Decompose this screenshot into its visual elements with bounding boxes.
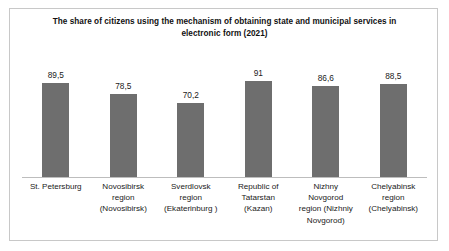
category-axis-labels: St. PetersburgNovosibirskregion(Novosibi… xyxy=(22,181,427,247)
bar-value-label: 70,2 xyxy=(183,90,199,101)
bar-column: 78,5 xyxy=(90,45,158,178)
category-label-line: region xyxy=(157,192,225,203)
chart-frame: The share of citizens using the mechanis… xyxy=(9,8,438,241)
bar[interactable] xyxy=(177,103,204,178)
bar[interactable] xyxy=(380,84,407,178)
bar-column: 91 xyxy=(225,45,293,178)
category-label-line: region (Nizhniy xyxy=(292,203,360,214)
chart-title: The share of citizens using the mechanis… xyxy=(32,16,417,40)
bar-value-label: 86,6 xyxy=(318,73,334,84)
bar-group: 86,6 xyxy=(292,45,360,178)
plot-area: 89,578,570,29186,688,5 xyxy=(22,45,427,178)
category-label: Republic ofTatarstan(Kazan) xyxy=(225,181,293,215)
category-label-line: Novosibirsk xyxy=(90,181,158,192)
bar-group: 70,2 xyxy=(157,45,225,178)
category-label: Sverdlovskregion(Ekaterinburg ) xyxy=(157,181,225,215)
category-label-line: St. Petersburg xyxy=(22,181,90,192)
category-label: Chelyabinskregion(Chelyabinsk) xyxy=(360,181,428,215)
category-label-line: region xyxy=(360,192,428,203)
category-label-line: (Novosibirsk) xyxy=(90,203,158,214)
category-label-line: Chelyabinsk xyxy=(360,181,428,192)
category-label-line: (Ekaterinburg ) xyxy=(157,203,225,214)
bar-value-label: 91 xyxy=(254,68,263,79)
bar-group: 88,5 xyxy=(360,45,428,178)
bar[interactable] xyxy=(312,86,339,178)
category-label-line: Novgorod) xyxy=(292,215,360,226)
bar-column: 88,5 xyxy=(360,45,428,178)
bar-value-label: 88,5 xyxy=(385,71,401,82)
category-label-line: (Chelyabinsk) xyxy=(360,203,428,214)
bar-group: 91 xyxy=(225,45,293,178)
x-axis-line xyxy=(22,177,427,178)
bar-column: 70,2 xyxy=(157,45,225,178)
category-label: NizhnyNovgorodregion (NizhniyNovgorod) xyxy=(292,181,360,226)
category-label-line: Tatarstan xyxy=(225,192,293,203)
category-label-line: Nizhny xyxy=(292,181,360,192)
category-label: St. Petersburg xyxy=(22,181,90,192)
bar-group: 78,5 xyxy=(90,45,158,178)
bar-group: 89,5 xyxy=(22,45,90,178)
bar[interactable] xyxy=(110,94,137,178)
category-label-line: Novgorod xyxy=(292,192,360,203)
bar[interactable] xyxy=(42,83,69,178)
category-label: Novosibirskregion(Novosibirsk) xyxy=(90,181,158,215)
category-label-line: (Kazan) xyxy=(225,203,293,214)
category-label-line: region xyxy=(90,192,158,203)
bar[interactable] xyxy=(245,81,272,178)
bar-column: 89,5 xyxy=(22,45,90,178)
bar-value-label: 78,5 xyxy=(115,81,131,92)
bar-column: 86,6 xyxy=(292,45,360,178)
bar-value-label: 89,5 xyxy=(48,70,64,81)
category-label-line: Sverdlovsk xyxy=(157,181,225,192)
category-label-line: Republic of xyxy=(225,181,293,192)
